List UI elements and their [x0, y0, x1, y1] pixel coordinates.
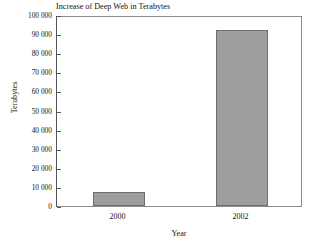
- y-axis-tick-label: 70 000: [0, 69, 52, 77]
- plot-inner: [57, 17, 301, 206]
- y-axis-tick: [57, 92, 61, 93]
- y-axis-tick: [57, 35, 61, 36]
- chart-screenshot: Increase of Deep Web in Terabytes Teraby…: [0, 0, 313, 244]
- y-axis-tick-label: 30 000: [0, 146, 52, 154]
- y-axis-tick-label: 50 000: [0, 108, 52, 116]
- bar: [216, 30, 268, 206]
- y-axis-tick-label: 80 000: [0, 50, 52, 58]
- y-axis-tick-label: 0: [0, 203, 52, 211]
- x-axis-tick-label: 2000: [88, 212, 148, 222]
- y-axis-tick-label: 60 000: [0, 88, 52, 96]
- y-axis-tick-label: 90 000: [0, 31, 52, 39]
- y-axis-tick-label: 40 000: [0, 127, 52, 135]
- y-axis-tick: [57, 207, 61, 208]
- chart-title: Increase of Deep Web in Terabytes: [56, 1, 302, 12]
- y-axis-tick: [57, 112, 61, 113]
- y-axis-tick-label: 20 000: [0, 165, 52, 173]
- y-axis-tick: [57, 169, 61, 170]
- y-axis-tick-label: 100 000: [0, 12, 52, 20]
- x-axis-title: Year: [56, 229, 302, 239]
- y-axis-tick-label: 10 000: [0, 184, 52, 192]
- y-axis-tick: [57, 16, 61, 17]
- bar: [93, 192, 145, 206]
- y-axis-tick: [57, 131, 61, 132]
- plot-area: [56, 16, 302, 207]
- y-axis-tick: [57, 150, 61, 151]
- x-axis-tick-label: 2002: [211, 212, 271, 222]
- y-axis-tick: [57, 73, 61, 74]
- y-axis-tick: [57, 54, 61, 55]
- y-axis-tick: [57, 188, 61, 189]
